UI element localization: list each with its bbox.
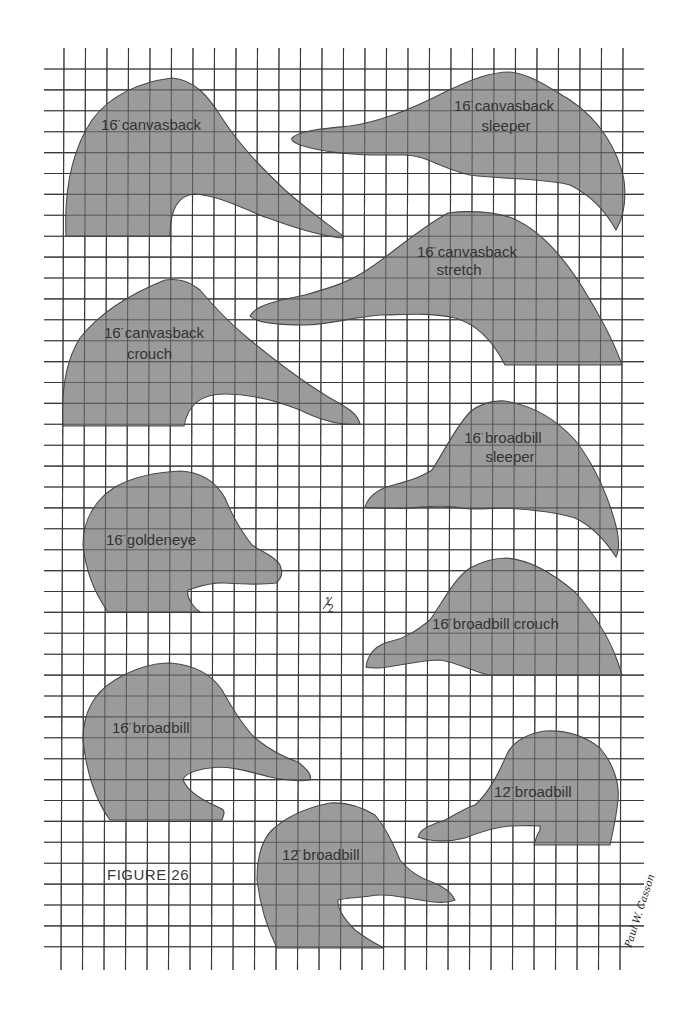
grid-vertical-line xyxy=(491,48,494,970)
decoy-head-pattern-sheet: 16̈ canvasback 16̈ canvasback sleeper 16… xyxy=(0,0,684,1016)
label-goldeneye-16: 16̈ goldeneye xyxy=(106,531,196,548)
shape-canvasback-stretch-16 xyxy=(250,212,622,365)
label-canvasback-16: 16̈ canvasback xyxy=(101,116,202,133)
grid-vertical-line xyxy=(61,48,64,970)
svg-text:2: 2 xyxy=(328,603,334,614)
pattern-shapes xyxy=(63,72,625,948)
figure-title: FIGURE 26 xyxy=(107,866,189,883)
label-broadbill-crouch-16: 16̈ broadbill crouch xyxy=(432,615,559,632)
scale-mark-half: 1 2 1/2 xyxy=(323,596,334,614)
grid-vertical-line xyxy=(405,48,408,970)
label-broadbill-16: 16̈ broadbill xyxy=(112,719,190,736)
shape-canvasback-sleeper-16 xyxy=(292,72,625,230)
label-broadbill-12-bottom: 12̈ broadbill xyxy=(282,846,360,863)
label-broadbill-12-right: 12̈ broadbill xyxy=(494,783,572,800)
